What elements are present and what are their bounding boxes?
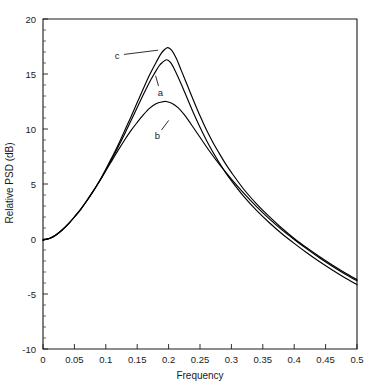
x-tick-label: 0.4 (288, 354, 301, 365)
x-tick-label: 0.05 (65, 354, 84, 365)
y-tick-label: -10 (22, 344, 36, 355)
x-axis-title: Frequency (176, 370, 223, 381)
y-tick-label: 15 (25, 69, 36, 80)
y-tick-label: -5 (28, 289, 36, 300)
chart-figure: 00.050.10.150.20.250.30.350.40.450.5 201… (0, 0, 375, 385)
annotation-leader-b (161, 120, 168, 130)
x-tick-label: 0.15 (128, 354, 147, 365)
y-axis-ticks: 20151050-5-10 (22, 14, 48, 355)
x-tick-label: 0.1 (99, 354, 112, 365)
y-tick-label: 5 (31, 179, 36, 190)
x-axis-ticks: 00.050.10.150.20.250.30.350.40.450.5 (40, 344, 363, 365)
curve-c (43, 48, 357, 280)
curve-label-b: b (155, 130, 160, 141)
curve-label-a: a (158, 87, 164, 98)
y-axis-title: Relative PSD (dB) (4, 142, 15, 223)
curve-label-c: c (115, 50, 120, 61)
x-tick-label: 0.35 (254, 354, 273, 365)
x-tick-label: 0.45 (316, 354, 335, 365)
y-tick-label: 20 (25, 14, 36, 25)
x-tick-label: 0.25 (191, 354, 210, 365)
x-tick-label: 0.2 (162, 354, 175, 365)
plot-canvas: 00.050.10.150.20.250.30.350.40.450.5 201… (0, 0, 375, 385)
annotation-leader-c (124, 50, 158, 54)
x-tick-label: 0 (40, 354, 45, 365)
annotation-leader-a (156, 76, 159, 86)
x-tick-label: 0.3 (225, 354, 238, 365)
y-tick-label: 0 (31, 234, 36, 245)
y-tick-label: 10 (25, 124, 36, 135)
x-tick-label: 0.5 (350, 354, 363, 365)
axes-frame (43, 19, 357, 349)
data-curves (43, 48, 357, 285)
